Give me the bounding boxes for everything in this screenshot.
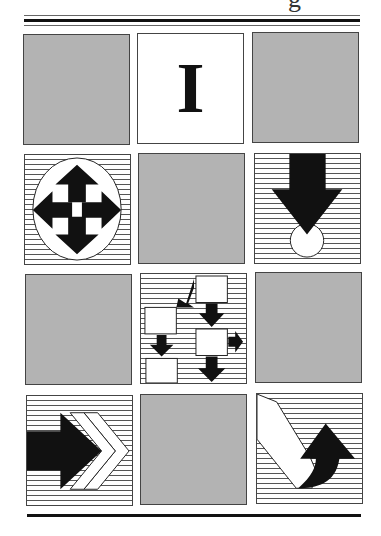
flowchart-icon	[141, 274, 246, 383]
tile-down-arrow-target	[254, 153, 361, 264]
tile-forward-arrow	[26, 395, 133, 506]
tile-blank-r2c2	[138, 153, 245, 264]
tile-curved-arrow	[256, 393, 363, 504]
title-fragment: g	[288, 0, 301, 12]
tile-blank-r3c1	[25, 274, 132, 385]
forward-arrow-icon	[27, 396, 132, 505]
text-cursor-icon: I	[138, 34, 243, 143]
tile-blank-r1c3	[252, 32, 359, 143]
tile-text-cursor: I	[137, 33, 244, 144]
down-arrow-target-icon	[255, 154, 360, 263]
move-cursor-icon	[25, 155, 130, 264]
top-rule-thin-2	[24, 25, 360, 26]
tile-blank-r1c1	[23, 34, 130, 145]
tile-blank-r4c2	[140, 394, 247, 505]
curved-arrow-icon	[257, 394, 362, 503]
bottom-rule	[27, 514, 361, 517]
tile-blank-r3c3	[255, 272, 362, 383]
top-rule-thin-1	[24, 15, 360, 16]
top-rule-thick	[24, 19, 360, 22]
tile-flowchart	[140, 273, 247, 384]
tile-move-cursor	[24, 154, 131, 265]
